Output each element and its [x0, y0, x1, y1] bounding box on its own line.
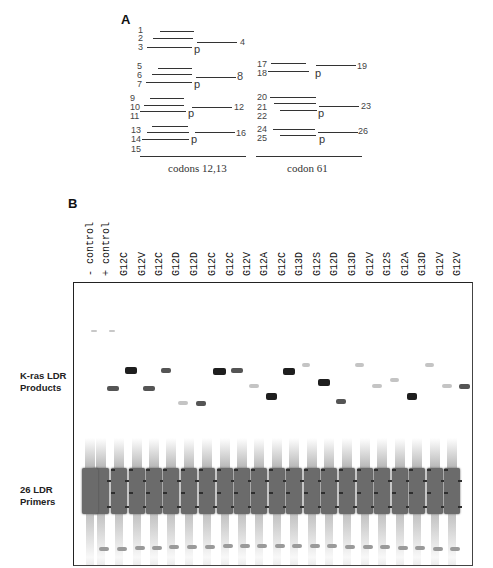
primer-dot: [357, 492, 361, 494]
primer-dot: [427, 469, 431, 471]
lane-label: G13D: [347, 252, 358, 276]
primer-line: [146, 82, 192, 83]
primers-label-line: 26 LDR: [20, 484, 55, 496]
primer-line: [319, 106, 359, 107]
bottom-smear: [240, 544, 250, 548]
primer-line: [147, 132, 189, 133]
primer-dot: [163, 492, 167, 494]
primer-dot: [427, 492, 431, 494]
lane-label: G13D: [417, 252, 428, 276]
primer-dot: [321, 469, 325, 471]
group-underline: [256, 156, 362, 157]
primers-label-line: Primers: [20, 496, 55, 508]
primer-dot: [269, 469, 273, 471]
primer-dot: [339, 492, 343, 494]
primer-dot: [269, 492, 273, 494]
panel-a-letter: A: [121, 12, 130, 27]
product-band: [161, 368, 171, 373]
primer-dot: [286, 492, 290, 494]
primer-dot: [163, 469, 167, 471]
lane-label: G13D: [294, 252, 305, 276]
phosphate-mark: p: [315, 68, 321, 79]
primer-number: 15: [131, 145, 141, 154]
lane-label: + control: [101, 222, 112, 276]
primer-dot: [444, 492, 448, 494]
primer-line: [144, 105, 184, 106]
product-band: [213, 368, 226, 375]
group-caption: codons 12,13: [168, 162, 227, 174]
lane-label: G12V: [452, 252, 463, 276]
primer-dot: [444, 469, 448, 471]
product-band: [425, 363, 434, 367]
lane-label: G12A: [259, 252, 270, 276]
product-band: [459, 384, 470, 389]
product-band: [355, 363, 364, 367]
product-band: [442, 384, 452, 388]
primer-line: [280, 110, 317, 111]
lane-label: - control: [85, 222, 96, 276]
primer-number: 12: [234, 103, 244, 112]
primer-line: [316, 65, 356, 66]
primers-label: 26 LDR Primers: [20, 484, 55, 508]
product-band: [372, 384, 382, 388]
product-band: [178, 401, 188, 405]
primer-line: [271, 63, 306, 64]
primer-number: 23: [361, 102, 371, 111]
primer-line: [270, 97, 316, 98]
phosphate-mark: p: [194, 79, 200, 90]
primer-dot: [458, 506, 462, 508]
bottom-smear: [205, 545, 215, 549]
primer-dot: [199, 469, 203, 471]
primer-dot: [357, 469, 361, 471]
primer-number: 8: [237, 72, 243, 81]
bottom-smear: [169, 545, 179, 549]
products-label: K-ras LDR Products: [20, 370, 66, 394]
product-band: [249, 384, 259, 388]
bottom-smear: [380, 545, 390, 549]
primer-dot: [392, 492, 396, 494]
lane-label: G12S: [312, 252, 323, 276]
primer-dot: [409, 469, 413, 471]
faint-spot: [91, 330, 97, 332]
bottom-smear: [345, 545, 355, 549]
bottom-smear: [187, 545, 197, 549]
product-band: [318, 379, 330, 386]
group-underline: [140, 156, 246, 157]
primer-dot: [199, 492, 203, 494]
phosphate-mark: p: [191, 134, 197, 145]
product-band: [231, 368, 243, 373]
primer-line: [140, 111, 186, 112]
product-band: [283, 368, 295, 375]
bottom-smear: [152, 546, 162, 550]
lane-label: G12V: [365, 252, 376, 276]
product-band: [125, 367, 137, 374]
lane-label: G12A: [400, 252, 411, 276]
primer-number: 20: [257, 93, 267, 102]
primer-dot: [392, 469, 396, 471]
bottom-smear: [135, 546, 145, 550]
primer-number: 14: [131, 135, 141, 144]
gel-image: [73, 282, 473, 566]
primer-band: [82, 468, 98, 514]
lane-label: G12V: [137, 252, 148, 276]
primer-dot: [374, 469, 378, 471]
group-caption: codon 61: [287, 162, 328, 174]
bottom-smear: [275, 544, 285, 548]
phosphate-mark: p: [188, 108, 194, 119]
primer-dot: [339, 469, 343, 471]
bottom-smear: [292, 544, 302, 548]
product-band: [143, 386, 155, 391]
primer-line: [280, 135, 316, 136]
primer-line: [273, 129, 315, 130]
bottom-smear: [398, 546, 408, 550]
lane-label: G12V: [242, 252, 253, 276]
primer-dot: [409, 492, 413, 494]
primer-dot: [304, 469, 308, 471]
primer-dot: [146, 492, 150, 494]
primer-dot: [111, 469, 115, 471]
primer-number: 18: [257, 69, 267, 78]
primer-line: [197, 42, 237, 43]
lane-label: G12V: [435, 252, 446, 276]
primer-dot: [286, 469, 290, 471]
primer-dot: [146, 469, 150, 471]
